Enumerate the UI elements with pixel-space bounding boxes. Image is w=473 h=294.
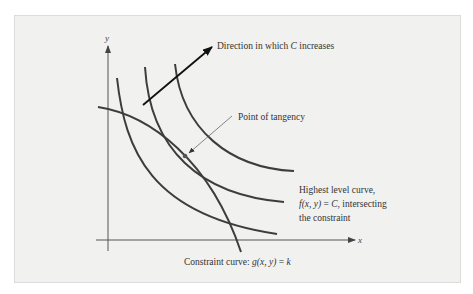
highest-args: (x, y)	[302, 199, 322, 210]
lagrange-diagram: y x Direction in which C increases Point…	[0, 0, 473, 294]
highest-rest: , intersecting	[338, 199, 387, 209]
y-axis-label: y	[104, 33, 109, 43]
level-curve-low	[117, 78, 277, 234]
direction-label-prefix: Direction in which	[217, 41, 291, 51]
direction-label: Direction in which C increases	[217, 41, 334, 51]
constraint-curve	[98, 107, 241, 252]
tangency-label: Point of tangency	[238, 112, 305, 122]
direction-arrow	[143, 47, 212, 105]
highest-curve-label-line2: f(x, y) = C, intersecting	[299, 199, 387, 210]
constraint-eq: =	[276, 257, 286, 267]
level-curve-tangent	[145, 67, 284, 202]
constraint-label: Constraint curve: g(x, y) = k	[184, 257, 291, 268]
constraint-args: (x, y)	[257, 257, 277, 268]
tangency-point	[183, 154, 188, 159]
highest-eq: =	[321, 199, 331, 209]
direction-label-suffix: increases	[297, 41, 334, 51]
highest-curve-label-line1: Highest level curve,	[299, 185, 375, 195]
x-axis-label: x	[357, 235, 362, 245]
constraint-k: k	[286, 257, 291, 267]
highest-curve-label-line3: the constraint	[299, 213, 351, 223]
constraint-prefix: Constraint curve:	[184, 257, 252, 267]
